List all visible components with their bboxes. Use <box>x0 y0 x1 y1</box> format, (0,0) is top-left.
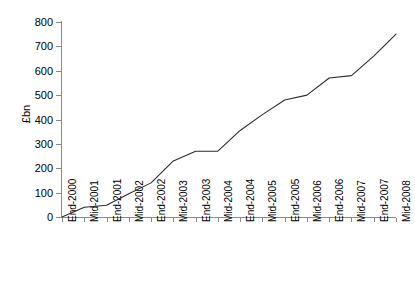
data-series-line <box>62 34 396 217</box>
